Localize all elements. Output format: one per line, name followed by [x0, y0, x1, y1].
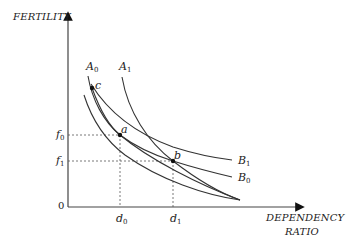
curve-label-a0-base: A — [86, 60, 94, 73]
tick-d0-base: d — [116, 212, 123, 225]
tick-f0-sub: 0 — [60, 134, 64, 142]
x-axis-label-line1: DEPENDENCY — [266, 213, 344, 223]
curve-label-b0-base: B — [238, 171, 246, 184]
diagram-canvas — [0, 0, 347, 245]
tick-f0: f0 — [56, 129, 65, 142]
tick-f1: f1 — [56, 155, 65, 168]
curve-label-a0: A0 — [86, 61, 98, 74]
curve-label-a1-sub: 1 — [127, 66, 131, 74]
point-c-marker — [90, 86, 94, 90]
curve-label-a1-base: A — [119, 60, 127, 73]
curve-lower — [84, 95, 240, 200]
curve-a1 — [122, 77, 240, 200]
curve-label-b0-sub: 0 — [246, 177, 250, 185]
point-c-label: c — [95, 80, 101, 91]
curve-label-b1: B1 — [238, 155, 251, 168]
curve-b1 — [91, 84, 232, 160]
curve-label-a0-sub: 0 — [94, 66, 98, 74]
curve-label-b1-sub: 1 — [246, 160, 250, 168]
tick-d0: d0 — [116, 213, 128, 226]
tick-f1-sub: 1 — [60, 160, 64, 168]
tick-d1-sub: 1 — [177, 218, 181, 226]
tick-d0-sub: 0 — [123, 218, 127, 226]
curve-label-b1-base: B — [238, 154, 246, 167]
origin-label: 0 — [58, 201, 64, 211]
tick-d1-base: d — [170, 212, 177, 225]
curve-a0 — [88, 76, 240, 200]
point-b-label: b — [174, 150, 181, 161]
curve-label-b0: B0 — [238, 172, 251, 185]
y-axis-label: FERTILITY — [13, 12, 71, 22]
guide-lines — [68, 135, 173, 207]
point-a-label: a — [121, 124, 128, 135]
tick-d1: d1 — [170, 213, 182, 226]
x-axis-label-line2: RATIO — [285, 227, 319, 237]
curve-label-a1: A1 — [119, 61, 131, 74]
